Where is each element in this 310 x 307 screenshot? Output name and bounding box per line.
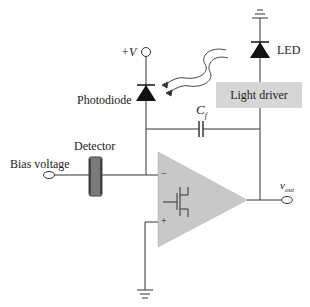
feedback-cap-label: Cf	[196, 103, 207, 120]
detector-label: Detector	[74, 140, 115, 152]
bias-terminal	[44, 172, 55, 179]
plus-input-label: +	[161, 216, 167, 226]
supply-label: +V	[121, 46, 136, 58]
supply-terminal	[142, 48, 151, 57]
bias-voltage-label: Bias voltage	[10, 158, 70, 170]
light-driver-box: Light driver	[216, 82, 302, 108]
detector-symbol	[89, 157, 102, 196]
photodiode-symbol	[136, 85, 156, 101]
circuit-schematic	[0, 0, 310, 307]
led-label: LED	[277, 44, 300, 56]
minus-input-label: −	[161, 169, 167, 179]
output-label: vout	[280, 180, 294, 194]
circuit-diagram: +V Photodiode LED Light driver Cf Detect…	[0, 0, 310, 307]
output-terminal	[282, 197, 293, 204]
op-amp	[158, 152, 247, 247]
photodiode-label: Photodiode	[77, 94, 132, 106]
led-symbol	[250, 42, 270, 58]
light-driver-label: Light driver	[230, 88, 288, 103]
